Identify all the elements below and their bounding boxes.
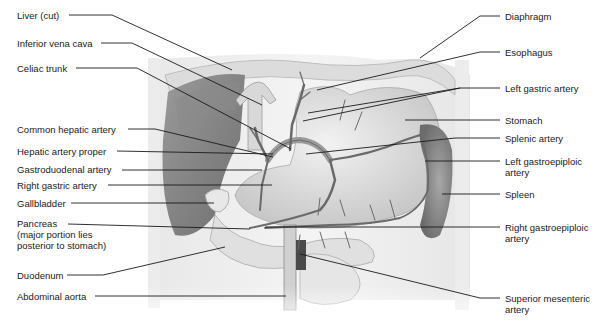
label-hepatic-artery-proper: Hepatic artery proper — [17, 146, 106, 157]
anatomy-figure: Liver (cut) Inferior vena cava Celiac tr… — [0, 0, 607, 331]
label-stomach: Stomach — [505, 115, 543, 126]
label-duodenum: Duodenum — [17, 270, 63, 281]
label-pancreas: Pancreas (major portion lies posterior t… — [17, 218, 106, 251]
label-right-gastroepiploic-artery: Right gastroepiploic artery — [505, 222, 588, 244]
label-gallbladder: Gallbladder — [17, 198, 66, 209]
label-common-hepatic-artery: Common hepatic artery — [17, 124, 116, 135]
label-esophagus: Esophagus — [505, 47, 553, 58]
label-right-gastric-artery: Right gastric artery — [17, 180, 97, 191]
label-superior-mesenteric-artery: Superior mesenteric artery — [505, 293, 590, 315]
label-abdominal-aorta: Abdominal aorta — [17, 291, 86, 302]
label-inferior-vena-cava: Inferior vena cava — [17, 38, 93, 49]
label-spleen: Spleen — [505, 189, 535, 200]
label-celiac-trunk: Celiac trunk — [17, 63, 67, 74]
label-left-gastroepiploic-artery: Left gastroepiploic artery — [505, 156, 582, 178]
label-liver: Liver (cut) — [17, 10, 59, 21]
label-splenic-artery: Splenic artery — [505, 133, 563, 144]
label-diaphragm: Diaphragm — [505, 11, 551, 22]
label-left-gastric-artery: Left gastric artery — [505, 83, 578, 94]
label-gastroduodenal-artery: Gastroduodenal artery — [17, 164, 112, 175]
